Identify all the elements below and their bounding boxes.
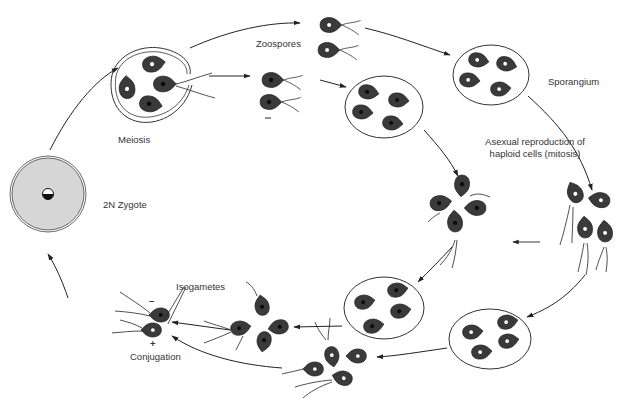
label-asexual-line2: haploid cells (mitosis) (470, 148, 600, 160)
label-plus-strain: + (150, 338, 156, 350)
label-zygote: 2N Zygote (103, 199, 147, 211)
zygote-cell (10, 156, 86, 232)
sporangium-mid (345, 76, 423, 138)
zoospores-mid (260, 73, 303, 118)
label-asexual-reproduction: Asexual reproduction of haploid cells (m… (470, 136, 600, 160)
label-meiosis: Meiosis (118, 134, 150, 146)
label-zoospores: Zoospores (256, 38, 301, 50)
released-cells-mid (428, 174, 490, 268)
life-cycle-diagram: Zoospores Sporangium Meiosis 2N Zygote A… (0, 0, 624, 414)
zoospores-top (318, 18, 361, 60)
label-sporangium: Sporangium (548, 76, 599, 88)
cells-bottom-center (282, 318, 366, 398)
label-conjugation: Conjugation (130, 351, 181, 363)
label-minus-strain: – (149, 295, 154, 307)
label-asexual-line1: Asexual reproduction of (470, 136, 600, 148)
sporangium-bottom-mid (344, 277, 424, 339)
released-cells-right (560, 179, 613, 275)
sporangium-bottom-right (449, 309, 531, 369)
meiosis-cyst (111, 47, 215, 122)
label-isogametes: Isogametes (176, 281, 225, 293)
sporangium-right (453, 45, 529, 105)
